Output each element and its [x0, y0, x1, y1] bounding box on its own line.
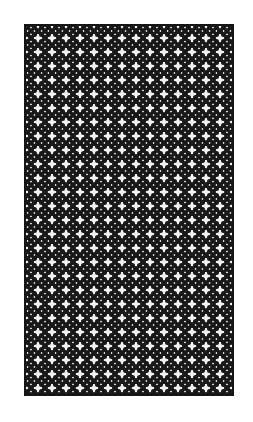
- figure-canvas: Woven Basket-Weave Lattice Pattern: [0, 0, 253, 422]
- weave-fill-area: [24, 24, 234, 396]
- pattern-frame: [24, 24, 234, 396]
- pattern-artwork: [24, 24, 234, 396]
